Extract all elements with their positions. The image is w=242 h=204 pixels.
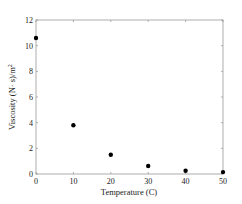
- y-tick-label: 8: [29, 67, 33, 76]
- y-tick-label: 6: [29, 93, 33, 102]
- y-tick-label: 10: [25, 42, 33, 51]
- data-points: [34, 36, 225, 175]
- y-axis-ticks: 024681012: [25, 16, 223, 179]
- x-tick-label: 0: [34, 177, 38, 186]
- chart-canvas: 01020304050 024681012 Temperature (C) Vi…: [0, 0, 242, 204]
- y-tick-label: 4: [29, 119, 33, 128]
- x-tick-label: 30: [144, 177, 152, 186]
- y-tick-label: 0: [29, 170, 33, 179]
- data-point-marker: [146, 164, 150, 168]
- data-point-marker: [221, 170, 225, 174]
- y-tick-label: 2: [29, 144, 33, 153]
- x-tick-label: 20: [107, 177, 115, 186]
- data-point-marker: [183, 169, 187, 173]
- data-point-marker: [34, 36, 38, 40]
- x-axis-ticks: 01020304050: [34, 20, 227, 186]
- y-axis-title: Viscosity (N· s)/m2: [7, 64, 17, 130]
- x-tick-label: 10: [69, 177, 77, 186]
- data-point-marker: [109, 153, 113, 157]
- axes-box: [36, 20, 223, 174]
- x-tick-label: 50: [219, 177, 227, 186]
- data-point-marker: [71, 123, 75, 127]
- x-tick-label: 40: [182, 177, 190, 186]
- y-tick-label: 12: [25, 16, 33, 25]
- x-axis-title: Temperature (C): [101, 187, 157, 197]
